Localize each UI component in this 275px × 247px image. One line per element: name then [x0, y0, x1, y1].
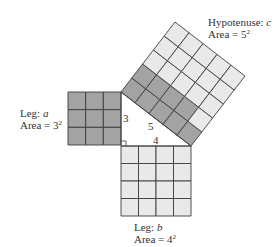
- grid-cell: [103, 127, 121, 145]
- grid-cell: [174, 146, 192, 164]
- leg-a-label: Leg: a Area = 32: [20, 107, 62, 131]
- grid-cell: [139, 146, 157, 164]
- grid-cell: [139, 164, 157, 182]
- hypotenuse-area-base: 5: [241, 28, 247, 40]
- leg-b-square: [121, 146, 191, 216]
- leg-b-label-text: Leg:: [134, 221, 157, 233]
- leg-a-area-exponent: 2: [59, 119, 63, 127]
- hypotenuse-label: Hypotenuse: c Area = 52: [208, 16, 271, 40]
- grid-cell: [156, 181, 174, 199]
- hypotenuse-area-exponent: 2: [247, 28, 251, 36]
- grid-cell: [121, 199, 139, 217]
- leg-b-label: Leg: b Area = 42: [134, 221, 176, 245]
- grid-cell: [121, 164, 139, 182]
- grid-cell: [156, 199, 174, 217]
- grid-cell: [121, 181, 139, 199]
- hypotenuse-area-text: Area =: [208, 28, 241, 40]
- leg-b-area-text: Area =: [134, 233, 167, 245]
- grid-cell: [156, 146, 174, 164]
- leg-a-variable: a: [43, 107, 49, 119]
- grid-cell: [139, 181, 157, 199]
- grid-cell: [68, 110, 86, 128]
- side-b-length: 4: [153, 134, 159, 146]
- grid-cell: [174, 181, 192, 199]
- leg-a-square: [68, 92, 121, 145]
- grid-cell: [68, 92, 86, 110]
- grid-cell: [86, 110, 104, 128]
- grid-cell: [121, 146, 139, 164]
- grid-cell: [103, 92, 121, 110]
- leg-a-area-base: 3: [53, 119, 59, 131]
- leg-b-area-exponent: 2: [173, 233, 177, 241]
- grid-cell: [156, 164, 174, 182]
- grid-cell: [174, 164, 192, 182]
- grid-cell: [103, 110, 121, 128]
- grid-cell: [86, 127, 104, 145]
- grid-cell: [174, 199, 192, 217]
- leg-b-variable: b: [157, 221, 163, 233]
- side-a-length: 3: [123, 112, 129, 124]
- hypotenuse-variable: c: [266, 16, 271, 28]
- leg-a-label-text: Leg:: [20, 107, 43, 119]
- side-c-length: 5: [148, 120, 154, 132]
- leg-b-area-base: 4: [167, 233, 173, 245]
- leg-a-area-text: Area =: [20, 119, 53, 131]
- grid-cell: [68, 127, 86, 145]
- hypotenuse-label-text: Hypotenuse:: [208, 16, 266, 28]
- hypotenuse-square: [121, 22, 245, 146]
- right-angle-marker: [121, 141, 126, 146]
- grid-cell: [86, 92, 104, 110]
- grid-cell: [139, 199, 157, 217]
